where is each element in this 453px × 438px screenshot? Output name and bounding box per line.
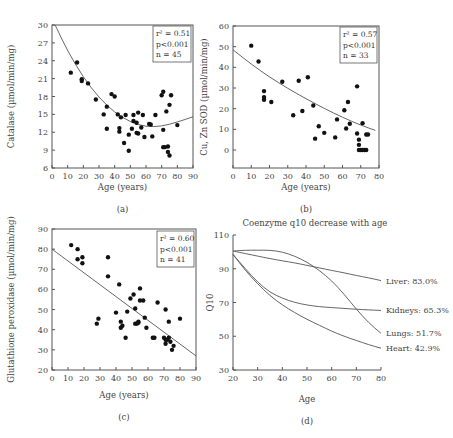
panel-label: (a) xyxy=(117,204,129,214)
x-tick-label: 60 xyxy=(141,172,151,181)
data-point xyxy=(75,60,79,64)
y-tick-label: 60 xyxy=(38,285,48,294)
data-point xyxy=(69,70,73,74)
data-point xyxy=(117,282,121,286)
data-point xyxy=(169,93,173,97)
x-tick-label: 40 xyxy=(111,374,121,383)
x-tick-label: 40 xyxy=(301,172,311,181)
y-tick-label: 30 xyxy=(219,366,229,375)
y-tick-label: 50 xyxy=(219,43,229,52)
data-point xyxy=(256,59,260,63)
stats-box: r² = 0.60p<0.001n = 41 xyxy=(157,231,195,267)
x-tick-label: 20 xyxy=(264,172,274,181)
stats-line: n = 33 xyxy=(343,51,369,60)
data-point xyxy=(313,136,317,140)
data-point xyxy=(366,132,370,136)
x-tick-label: 50 xyxy=(302,374,312,383)
data-point xyxy=(122,141,126,145)
x-tick-label: 20 xyxy=(79,374,89,383)
y-tick-label: 40 xyxy=(219,63,229,72)
series-label-lungs: Lungs: 51.7% xyxy=(386,329,442,338)
data-point xyxy=(167,336,171,340)
x-axis-label: Age (years) xyxy=(97,182,147,192)
series-line-lungs xyxy=(233,250,381,333)
data-point xyxy=(175,123,179,127)
figure-canvas: 01020304050607080906912151821242730Age (… xyxy=(0,0,453,438)
data-point xyxy=(344,126,348,130)
x-tick-label: 0 xyxy=(49,374,54,383)
y-tick-label: 9 xyxy=(43,146,48,155)
x-tick-label: 20 xyxy=(228,374,238,383)
data-point xyxy=(178,316,182,320)
data-point xyxy=(322,131,326,135)
x-tick-label: 30 xyxy=(253,374,263,383)
x-tick-label: 30 xyxy=(94,172,104,181)
stats-line: n = 45 xyxy=(156,50,182,59)
data-point xyxy=(144,326,148,330)
data-point xyxy=(141,113,145,117)
data-point xyxy=(75,247,79,251)
series-label-liver: Liver: 83.0% xyxy=(386,277,438,286)
x-tick-label: 10 xyxy=(63,172,73,181)
data-point xyxy=(112,94,116,98)
data-point xyxy=(335,117,339,121)
data-point xyxy=(120,323,124,327)
x-tick-label: 80 xyxy=(175,374,185,383)
data-point xyxy=(170,348,174,352)
data-point xyxy=(346,100,350,104)
data-point xyxy=(291,113,295,117)
series-line-heart xyxy=(233,254,381,348)
y-tick-label: 15 xyxy=(38,110,48,119)
y-axis-label: Glutathione peroxidase (µmol/min/mg) xyxy=(6,216,16,383)
data-point xyxy=(161,90,165,94)
data-point xyxy=(119,319,123,323)
data-point xyxy=(143,315,147,319)
data-point xyxy=(94,97,98,101)
data-point xyxy=(106,274,110,278)
x-tick-label: 50 xyxy=(125,172,135,181)
x-tick-label: 90 xyxy=(188,172,198,181)
data-point xyxy=(136,110,140,114)
data-point xyxy=(141,298,145,302)
y-tick-label: 50 xyxy=(38,306,48,315)
data-point xyxy=(127,132,131,136)
y-tick-label: 60 xyxy=(219,22,229,31)
data-points xyxy=(69,60,180,157)
x-tick-label: 80 xyxy=(374,172,384,181)
data-point xyxy=(280,80,284,84)
data-point xyxy=(348,122,352,126)
stats-line: p<0.001 xyxy=(343,41,376,50)
x-tick-label: 90 xyxy=(191,374,201,383)
x-axis-label: Age (years) xyxy=(280,182,330,192)
y-axis-label: Catalase (µmol/min/mg) xyxy=(6,45,16,148)
data-point xyxy=(311,103,315,107)
axes: 2030405060708030507090110 xyxy=(214,231,386,383)
data-point xyxy=(168,340,172,344)
series-line-liver xyxy=(233,251,381,281)
y-tick-label: 30 xyxy=(38,346,48,355)
y-tick-label: 21 xyxy=(38,75,48,84)
stats-box: r² = 0.57p<0.001n = 33 xyxy=(340,27,378,63)
x-tick-label: 80 xyxy=(376,374,386,383)
y-tick-label: 90 xyxy=(219,265,229,274)
data-point xyxy=(262,98,266,102)
y-tick-label: 20 xyxy=(38,366,48,375)
data-point xyxy=(142,135,146,139)
y-tick-label: 20 xyxy=(219,105,229,114)
chart-d-coenzyme-q10: 2030405060708030507090110AgeQ10(d)Coenzy… xyxy=(205,218,449,426)
data-point xyxy=(355,84,359,88)
chart-a-catalase: 01020304050607080906912151821242730Age (… xyxy=(6,21,198,214)
data-point xyxy=(136,131,140,135)
data-point xyxy=(167,103,171,107)
data-point xyxy=(164,109,168,113)
data-point xyxy=(139,125,143,129)
x-tick-label: 0 xyxy=(230,172,235,181)
data-point xyxy=(127,149,131,153)
data-point xyxy=(297,79,301,83)
x-tick-label: 60 xyxy=(337,172,347,181)
data-point xyxy=(105,126,109,130)
x-tick-label: 30 xyxy=(95,374,105,383)
data-point xyxy=(138,286,142,290)
x-tick-label: 0 xyxy=(49,172,54,181)
stats-line: n = 41 xyxy=(160,255,185,264)
